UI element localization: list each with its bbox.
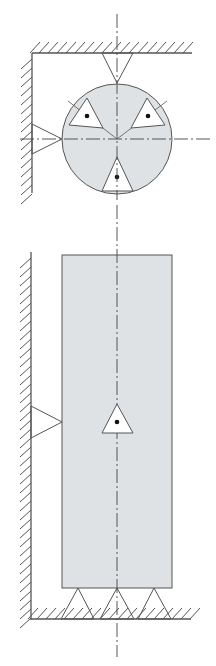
left-locator-icon [31, 406, 62, 438]
top-locator-icon [102, 53, 133, 83]
left-wall-hatched [21, 53, 32, 204]
floor-hatched [28, 608, 200, 619]
bottom-locator-right-icon [138, 588, 171, 619]
left-wall-hatched [20, 252, 31, 628]
point-dot-icon [115, 420, 120, 425]
point-dot-icon [85, 114, 90, 119]
point-dot-icon [146, 114, 151, 119]
upper-view-disk [20, 14, 212, 204]
lower-view-block [20, 205, 200, 657]
top-wall-hatched [30, 42, 193, 53]
locating-diagram [0, 0, 216, 666]
